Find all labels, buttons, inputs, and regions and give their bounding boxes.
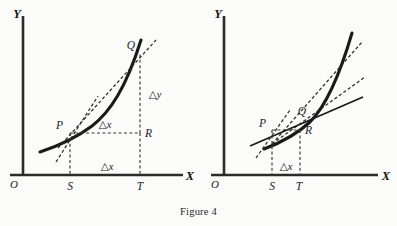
left-delta-x-lower-var: x bbox=[108, 161, 114, 172]
left-origin-label: O bbox=[10, 178, 18, 190]
left-delta-x-lower: △x bbox=[101, 161, 114, 172]
right-panel: Y X O P Q R S T △x bbox=[211, 7, 391, 192]
figure-container: Y X O P Q R S T △x △y △x bbox=[0, 0, 397, 226]
right-point-label-P: P bbox=[258, 117, 266, 129]
left-delta-x-upper-var: x bbox=[106, 119, 112, 130]
figure-4-drawing: Y X O P Q R S T △x △y △x bbox=[0, 0, 397, 226]
left-point-label-Q: Q bbox=[127, 39, 136, 51]
left-point-label-S: S bbox=[67, 180, 73, 192]
left-x-axis-label: X bbox=[185, 169, 195, 183]
left-secant-line-PQ bbox=[58, 40, 156, 148]
right-origin-label: O bbox=[211, 178, 219, 190]
right-delta-x-lower: △x bbox=[280, 161, 293, 172]
right-y-axis-label: Y bbox=[214, 7, 223, 21]
right-point-label-R: R bbox=[304, 124, 312, 136]
figure-caption: Figure 4 bbox=[0, 206, 397, 217]
right-delta-x-lower-var: x bbox=[287, 161, 293, 172]
right-point-label-T: T bbox=[296, 180, 304, 192]
right-point-label-Q: Q bbox=[298, 105, 307, 117]
right-secant-line-near bbox=[272, 77, 365, 144]
left-delta-y: △y bbox=[149, 89, 162, 100]
left-panel: Y X O P Q R S T △x △y △x bbox=[10, 7, 195, 192]
left-point-label-R: R bbox=[144, 127, 152, 139]
left-function-curve bbox=[40, 40, 141, 152]
left-delta-y-var: y bbox=[156, 89, 162, 100]
left-point-label-T: T bbox=[137, 180, 145, 192]
left-y-axis-label: Y bbox=[13, 7, 22, 21]
right-x-axis-label: X bbox=[381, 169, 391, 183]
left-point-label-P: P bbox=[55, 119, 63, 131]
right-secant-line-far bbox=[272, 42, 362, 144]
right-point-label-S: S bbox=[269, 180, 275, 192]
left-delta-x-upper: △x bbox=[99, 119, 112, 130]
